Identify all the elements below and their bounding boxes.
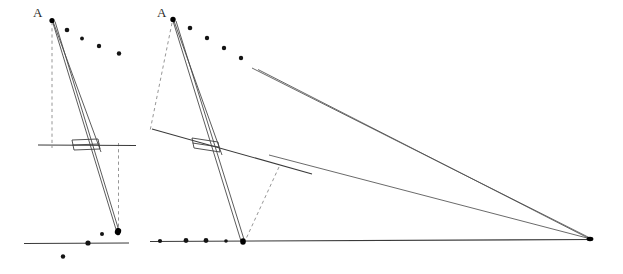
left-image-point-lower [61, 254, 65, 258]
right-object-point-3 [222, 46, 226, 50]
right-apex-point [170, 17, 175, 22]
ray-diagram-svg: A [0, 0, 623, 274]
left-diagram-group: A [24, 5, 136, 259]
left-image-plane-line [24, 243, 129, 244]
left-ray-outer-left [53, 22, 117, 232]
left-focus-point [114, 227, 122, 236]
vanishing-point [587, 237, 594, 241]
right-image-point-3 [204, 238, 209, 243]
left-object-point-3 [97, 44, 101, 48]
left-optic-axis-line [38, 145, 136, 146]
left-apex-point [49, 18, 54, 23]
right-image-point-2 [184, 238, 189, 243]
left-lens-shape [72, 139, 100, 150]
right-object-point-1 [188, 26, 193, 31]
left-object-point-4 [117, 51, 121, 55]
right-apex-label: A [157, 5, 167, 20]
right-dashed-left-edge [150, 23, 172, 131]
right-object-point-4 [239, 56, 243, 60]
right-diagram-group: A [150, 5, 593, 245]
left-object-point-2 [80, 37, 84, 41]
left-image-point-on-axis [85, 240, 90, 245]
right-object-point-2 [205, 36, 209, 40]
right-focus-point [240, 238, 246, 244]
figure-canvas: A [0, 0, 623, 274]
right-image-point-4 [224, 239, 228, 243]
upper-long-ray-pair [258, 70, 591, 240]
right-ray-outer-left [173, 21, 241, 241]
left-object-point-1 [65, 28, 70, 33]
middle-long-ray [269, 155, 591, 239]
left-ray-short-branch [53, 22, 101, 153]
right-ray-short-branch [174, 21, 222, 155]
right-image-plane-line [150, 240, 592, 242]
left-apex-label: A [33, 5, 43, 20]
right-dashed-right-edge [246, 167, 280, 240]
right-image-point-1 [158, 239, 162, 243]
right-slanted-optic-axis [152, 129, 312, 174]
left-image-point-upper [100, 232, 104, 236]
